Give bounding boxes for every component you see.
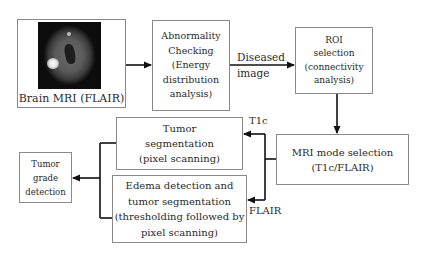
- tumor-seg-line-3: (pixel scanning): [139, 151, 220, 166]
- node-edema-detection: Edema detection and tumor segmentation (…: [112, 175, 247, 243]
- edge-label-flair: FLAIR: [249, 205, 281, 216]
- tumor-seg-line-1: Tumor: [163, 121, 196, 136]
- roi-line-2: selection: [314, 47, 355, 61]
- abnormality-line-3: (Energy: [172, 58, 210, 73]
- node-tumor-segmentation: Tumor segmentation (pixel scanning): [116, 117, 243, 170]
- tumor-grade-line-3: detection: [25, 185, 65, 199]
- abnormality-line-1: Abnormality: [161, 29, 220, 44]
- brain-mri-image: [38, 22, 101, 89]
- edema-line-4: pixel scanning): [141, 225, 218, 241]
- tumor-grade-line-2: grade: [33, 171, 58, 185]
- roi-line-3: (connectivity: [304, 61, 363, 75]
- roi-line-4: analysis): [314, 74, 354, 88]
- node-tumor-grade-detection: Tumor grade detection: [19, 152, 72, 203]
- node-abnormality-checking: Abnormality Checking (Energy distributio…: [152, 20, 230, 111]
- mri-mode-line-1: MRI mode selection: [292, 145, 393, 160]
- tumor-seg-line-2: segmentation: [145, 136, 214, 151]
- node-mri-mode-selection: MRI mode selection (T1c/FLAIR): [276, 134, 409, 185]
- edema-line-2: tumor segmentation: [128, 194, 231, 210]
- abnormality-line-2: Checking: [168, 44, 213, 59]
- edge-label-diseased: Diseased: [237, 51, 285, 63]
- abnormality-line-5: analysis): [170, 87, 212, 102]
- mri-mode-line-2: (T1c/FLAIR): [311, 160, 373, 175]
- edge-label-t1c: T1c: [249, 115, 268, 126]
- tumor-grade-line-1: Tumor: [31, 157, 59, 171]
- edge-label-image: image: [237, 67, 270, 79]
- edema-line-1: Edema detection and: [126, 178, 234, 194]
- edema-line-3: (thresholding followed by: [115, 209, 245, 225]
- abnormality-line-4: distribution: [163, 73, 219, 88]
- roi-line-1: ROI: [325, 34, 343, 48]
- node-brain-mri: Brain MRI (FLAIR): [17, 19, 126, 108]
- brain-mri-caption: Brain MRI (FLAIR): [19, 92, 124, 105]
- node-roi-selection: ROI selection (connectivity analysis): [295, 27, 373, 94]
